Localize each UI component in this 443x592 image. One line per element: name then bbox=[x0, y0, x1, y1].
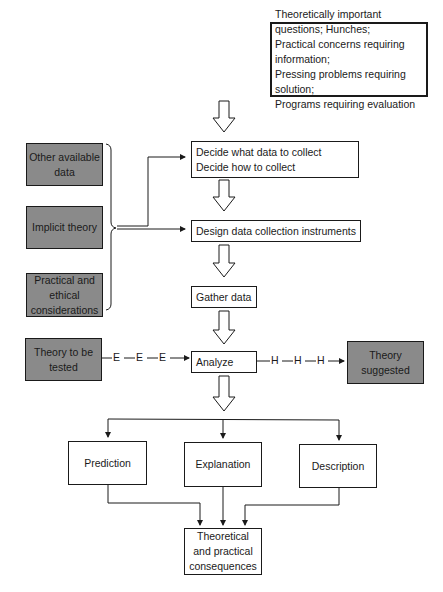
motivation-line-3: Pressing problems requiring solution; bbox=[275, 67, 426, 97]
consequences-line-3: consequences bbox=[189, 559, 257, 574]
research-motivations-box: Theoretically important questions; Hunch… bbox=[270, 22, 428, 97]
e-label-2: E bbox=[136, 351, 143, 363]
consequences-box: Theoretical and practical consequences bbox=[184, 528, 262, 575]
consequences-line-1: Theoretical bbox=[189, 529, 257, 544]
other-data-box: Other available data bbox=[26, 143, 103, 186]
prediction-label: Prediction bbox=[84, 456, 131, 471]
motivation-line-1: Theoretically important questions; Hunch… bbox=[275, 7, 426, 37]
practical-ethical-box: Practical and ethical considerations bbox=[26, 273, 103, 317]
e-label-1: E bbox=[113, 351, 120, 363]
explanation-box: Explanation bbox=[184, 442, 262, 487]
hollow-arrow-5 bbox=[213, 376, 235, 411]
consequences-line-2: and practical bbox=[189, 544, 257, 559]
hollow-arrow-4 bbox=[213, 311, 235, 344]
theory-suggested-line-1: Theory bbox=[361, 348, 409, 363]
description-box: Description bbox=[299, 444, 377, 488]
description-label: Description bbox=[312, 459, 365, 474]
other-data-line-1: Other available bbox=[29, 150, 100, 165]
hollow-arrow-1 bbox=[213, 101, 235, 132]
theory-to-be-tested-box: Theory to be tested bbox=[25, 338, 102, 381]
analyze-label: Analyze bbox=[196, 355, 256, 370]
decide-box: Decide what data to collect Decide how t… bbox=[191, 141, 359, 178]
practical-line-1: Practical and bbox=[31, 273, 99, 288]
implicit-theory-box: Implicit theory bbox=[26, 206, 103, 249]
theory-suggested-box: Theory suggested bbox=[347, 341, 424, 384]
design-instruments-box: Design data collection instruments bbox=[191, 220, 361, 242]
decide-line-2: Decide how to collect bbox=[196, 160, 358, 175]
gather-data-box: Gather data bbox=[191, 286, 257, 308]
prediction-box: Prediction bbox=[68, 441, 147, 485]
theory-suggested-line-2: suggested bbox=[361, 363, 409, 378]
decide-line-1: Decide what data to collect bbox=[196, 145, 358, 160]
hollow-arrow-2 bbox=[213, 180, 235, 211]
gather-label: Gather data bbox=[196, 290, 256, 305]
theory-tested-line-2: tested bbox=[34, 360, 93, 375]
theory-tested-line-1: Theory to be bbox=[34, 345, 93, 360]
motivation-line-2: Practical concerns requiring information… bbox=[275, 37, 426, 67]
motivation-line-4: Programs requiring evaluation bbox=[275, 97, 426, 112]
h-label-3: H bbox=[317, 354, 325, 366]
hollow-arrow-3 bbox=[213, 245, 235, 277]
h-label-2: H bbox=[294, 354, 302, 366]
practical-line-2: ethical bbox=[31, 288, 99, 303]
brace bbox=[106, 144, 116, 310]
implicit-theory-label: Implicit theory bbox=[32, 220, 97, 235]
explanation-label: Explanation bbox=[196, 457, 251, 472]
h-label-1: H bbox=[271, 354, 279, 366]
other-data-line-2: data bbox=[29, 165, 100, 180]
design-label: Design data collection instruments bbox=[196, 224, 360, 239]
analyze-box: Analyze bbox=[191, 351, 257, 373]
e-label-3: E bbox=[159, 351, 166, 363]
practical-line-3: considerations bbox=[31, 303, 99, 318]
